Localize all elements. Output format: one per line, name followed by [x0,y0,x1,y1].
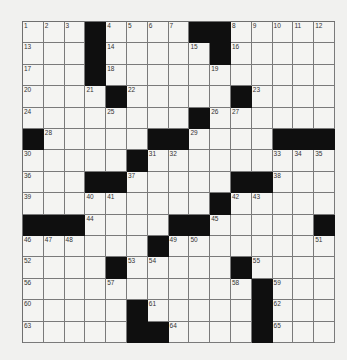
answer-cell[interactable] [44,193,65,214]
answer-cell[interactable] [44,300,65,321]
answer-cell[interactable]: 24 [23,108,44,129]
answer-cell[interactable] [252,43,273,64]
answer-cell[interactable]: 1 [23,22,44,43]
answer-cell[interactable]: 7 [169,22,190,43]
answer-cell[interactable] [273,257,294,278]
answer-cell[interactable] [210,236,231,257]
answer-cell[interactable]: 60 [23,300,44,321]
answer-cell[interactable] [106,150,127,171]
answer-cell[interactable] [169,86,190,107]
answer-cell[interactable] [293,193,314,214]
answer-cell[interactable] [189,65,210,86]
answer-cell[interactable] [106,129,127,150]
answer-cell[interactable] [273,215,294,236]
answer-cell[interactable] [65,322,86,343]
answer-cell[interactable]: 65 [273,322,294,343]
answer-cell[interactable] [65,43,86,64]
answer-cell[interactable] [189,172,210,193]
answer-cell[interactable] [273,43,294,64]
answer-cell[interactable] [252,215,273,236]
answer-cell[interactable]: 12 [314,22,335,43]
answer-cell[interactable]: 17 [23,65,44,86]
answer-cell[interactable] [65,65,86,86]
answer-cell[interactable] [65,300,86,321]
answer-cell[interactable] [65,279,86,300]
answer-cell[interactable] [189,279,210,300]
answer-cell[interactable] [210,129,231,150]
answer-cell[interactable]: 19 [210,65,231,86]
answer-cell[interactable] [44,322,65,343]
answer-cell[interactable] [293,236,314,257]
answer-cell[interactable] [231,236,252,257]
answer-cell[interactable]: 43 [252,193,273,214]
answer-cell[interactable]: 52 [23,257,44,278]
answer-cell[interactable] [106,300,127,321]
answer-cell[interactable] [189,86,210,107]
answer-cell[interactable]: 23 [252,86,273,107]
answer-cell[interactable] [127,108,148,129]
answer-cell[interactable]: 5 [127,22,148,43]
answer-cell[interactable] [231,215,252,236]
answer-cell[interactable] [273,86,294,107]
answer-cell[interactable] [148,279,169,300]
answer-cell[interactable] [231,300,252,321]
answer-cell[interactable] [169,279,190,300]
answer-cell[interactable]: 29 [189,129,210,150]
answer-cell[interactable] [44,65,65,86]
answer-cell[interactable]: 58 [231,279,252,300]
answer-cell[interactable] [273,193,294,214]
answer-cell[interactable] [252,108,273,129]
answer-cell[interactable] [231,65,252,86]
answer-cell[interactable] [293,322,314,343]
answer-cell[interactable]: 45 [210,215,231,236]
answer-cell[interactable] [293,300,314,321]
answer-cell[interactable] [210,86,231,107]
answer-cell[interactable] [85,108,106,129]
answer-cell[interactable] [127,43,148,64]
answer-cell[interactable] [85,150,106,171]
answer-cell[interactable] [293,108,314,129]
answer-cell[interactable] [189,257,210,278]
answer-cell[interactable] [314,300,335,321]
answer-cell[interactable] [231,322,252,343]
answer-cell[interactable]: 55 [252,257,273,278]
answer-cell[interactable] [127,65,148,86]
answer-cell[interactable]: 37 [127,172,148,193]
answer-cell[interactable] [231,129,252,150]
answer-cell[interactable]: 22 [127,86,148,107]
answer-cell[interactable] [65,257,86,278]
answer-cell[interactable] [231,150,252,171]
answer-cell[interactable] [252,129,273,150]
answer-cell[interactable]: 10 [273,22,294,43]
answer-cell[interactable]: 16 [231,43,252,64]
answer-cell[interactable] [314,322,335,343]
answer-cell[interactable]: 30 [23,150,44,171]
answer-cell[interactable] [85,257,106,278]
answer-cell[interactable] [189,193,210,214]
answer-cell[interactable] [169,300,190,321]
answer-cell[interactable] [210,150,231,171]
answer-cell[interactable]: 34 [293,150,314,171]
answer-cell[interactable] [65,86,86,107]
answer-cell[interactable] [85,129,106,150]
answer-cell[interactable]: 39 [23,193,44,214]
answer-cell[interactable]: 56 [23,279,44,300]
answer-cell[interactable] [273,236,294,257]
answer-cell[interactable] [273,108,294,129]
answer-cell[interactable]: 35 [314,150,335,171]
answer-cell[interactable]: 21 [85,86,106,107]
answer-cell[interactable] [148,215,169,236]
answer-cell[interactable] [85,322,106,343]
answer-cell[interactable] [169,172,190,193]
answer-cell[interactable] [169,257,190,278]
answer-cell[interactable] [314,193,335,214]
answer-cell[interactable] [293,215,314,236]
answer-cell[interactable] [127,215,148,236]
answer-cell[interactable] [314,108,335,129]
answer-cell[interactable]: 3 [65,22,86,43]
answer-cell[interactable] [148,108,169,129]
answer-cell[interactable]: 46 [23,236,44,257]
answer-cell[interactable] [65,150,86,171]
answer-cell[interactable] [169,43,190,64]
answer-cell[interactable]: 61 [148,300,169,321]
